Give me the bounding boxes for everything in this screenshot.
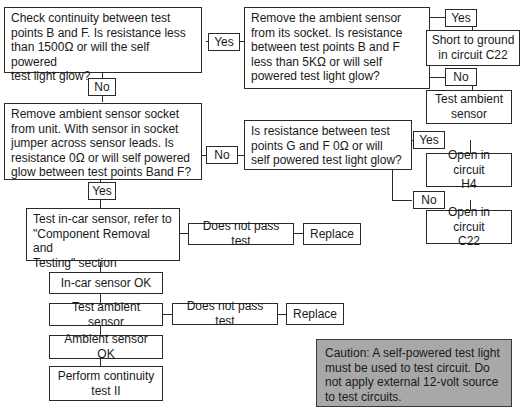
step-text: In-car sensor OK <box>61 276 152 291</box>
caution-note: Caution: A self-powered test light must … <box>316 339 512 407</box>
decision-text: Remove ambient sensor socket from unit. … <box>11 107 195 180</box>
yes-label: Yes <box>214 35 234 50</box>
decision-remove-sensor-socket: Remove ambient sensor socket from unit. … <box>4 103 202 180</box>
yes-label: Yes <box>92 184 112 199</box>
connector <box>430 17 445 18</box>
label-does-not-pass: Does not pass test <box>172 303 278 325</box>
no-label: No <box>214 148 229 163</box>
decision-remove-ambient-sensor: Remove the ambient sensor from its socke… <box>244 7 430 89</box>
no-label: No <box>94 80 109 95</box>
label-does-not-pass: Does not pass test <box>188 223 294 245</box>
connector <box>430 77 445 78</box>
decision-text: Is resistance between test points G and … <box>251 124 405 168</box>
result-test-ambient-sensor: Test ambient sensor <box>426 90 512 124</box>
step-text: Ambient sensor OK <box>54 332 158 361</box>
step-text: Test ambient sensor <box>54 300 158 329</box>
label-no: No <box>206 146 238 164</box>
label-yes: Yes <box>413 131 445 149</box>
step-test-ambient-sensor: Test ambient sensor <box>49 303 163 326</box>
label-yes: Yes <box>208 33 240 51</box>
step-test-incar-sensor: Test in-car sensor, refer to "Component … <box>26 208 180 261</box>
connector <box>392 200 412 201</box>
step-ambient-sensor-ok: Ambient sensor OK <box>49 335 163 359</box>
decision-text: Check continuity between test points B a… <box>11 11 195 84</box>
replace-label: Replace <box>310 227 354 242</box>
yes-label: Yes <box>419 133 439 148</box>
step-incar-sensor-ok: In-car sensor OK <box>49 272 163 294</box>
label-yes: Yes <box>445 9 477 27</box>
fail-label: Does not pass test <box>177 299 273 328</box>
label-yes: Yes <box>88 182 116 200</box>
result-text: Test ambient sensor <box>435 92 503 121</box>
result-text: Open in circuit C22 <box>431 205 507 249</box>
result-short-to-ground-c22: Short to ground in circuit C22 <box>426 30 520 66</box>
label-no: No <box>88 78 116 96</box>
result-text: Short to ground in circuit C22 <box>432 33 515 62</box>
replace-label: Replace <box>293 307 337 322</box>
decision-text: Remove the ambient sensor from its socke… <box>251 11 423 84</box>
connector <box>392 168 393 200</box>
label-no: No <box>445 68 477 86</box>
yes-label: Yes <box>451 11 471 26</box>
result-text: Open in circuit H4 <box>431 148 507 192</box>
fail-label: Does not pass test <box>193 219 289 248</box>
connector <box>293 233 303 234</box>
result-open-circuit-c22: Open in circuit C22 <box>426 210 512 244</box>
step-text: Test in-car sensor, refer to "Component … <box>33 212 173 270</box>
connector <box>162 314 172 315</box>
decision-resistance-g-f: Is resistance between test points G and … <box>244 120 412 170</box>
decision-check-continuity-bf: Check continuity between test points B a… <box>4 7 202 73</box>
step-text: Perform continuity test II <box>58 369 155 398</box>
result-replace-ambient: Replace <box>286 303 344 325</box>
result-open-circuit-h4: Open in circuit H4 <box>426 153 512 187</box>
result-replace-incar: Replace <box>303 223 361 245</box>
no-label: No <box>453 70 468 85</box>
step-perform-continuity-test-ii: Perform continuity test II <box>49 366 163 401</box>
caution-text: Caution: A self-powered test light must … <box>325 346 503 404</box>
